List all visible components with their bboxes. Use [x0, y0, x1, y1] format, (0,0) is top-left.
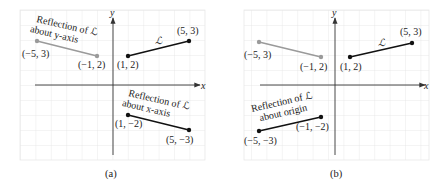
- point-label: (−5, −3): [244, 135, 277, 147]
- point: [126, 113, 130, 117]
- point-label: (−1, −2): [296, 121, 329, 133]
- x-axis-label: x: [200, 80, 206, 91]
- y-axis-label: y: [331, 7, 337, 18]
- panel-b: x y ℒ (5, 3) (1, 2) (−5, 3) (−1, 2) (−5,…: [244, 7, 429, 180]
- point-label: (5, −3): [166, 134, 193, 146]
- point-label: (5, 3): [400, 26, 422, 38]
- point: [319, 55, 323, 59]
- point-label: (−1, 2): [300, 61, 327, 73]
- segment-L-label: ℒ: [155, 35, 163, 46]
- point: [348, 55, 352, 59]
- segment-L-label: ℒ: [378, 37, 386, 48]
- caption-a: (a): [105, 168, 117, 180]
- point: [126, 54, 130, 58]
- point-label: (−5, 3): [244, 49, 271, 61]
- point: [410, 41, 414, 45]
- point-label: (−1, 2): [78, 59, 105, 71]
- point: [257, 129, 261, 133]
- caption-b: (b): [330, 168, 343, 180]
- point-label: (1, −2): [115, 118, 142, 130]
- y-axis-label: y: [109, 7, 115, 18]
- point: [95, 54, 99, 58]
- point: [257, 40, 261, 44]
- point-label: (5, 3): [177, 25, 199, 37]
- point-label: (1, 2): [117, 59, 139, 71]
- figure: x y ℒ (5, 3) (1, 2) (−5, 3) (−1, 2) Refl…: [0, 0, 433, 190]
- point: [35, 39, 39, 43]
- point: [187, 128, 191, 132]
- point-label: (−5, 3): [22, 48, 49, 60]
- x-axis-label: x: [423, 80, 429, 91]
- panel-a: x y ℒ (5, 3) (1, 2) (−5, 3) (−1, 2) Refl…: [20, 7, 206, 180]
- point-label: (1, 2): [340, 61, 362, 73]
- point: [187, 39, 191, 43]
- point: [319, 115, 323, 119]
